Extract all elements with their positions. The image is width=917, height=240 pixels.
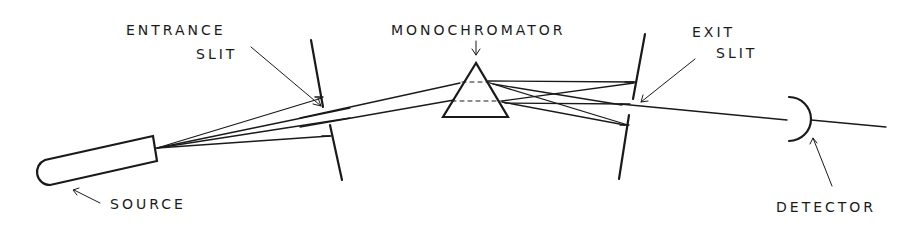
dispersed-beams [488,81,634,125]
source-arrow-icon [73,188,100,203]
detector [789,97,886,141]
detector-label: DETECTOR [776,199,876,215]
exit-label-line2: SLIT [716,45,757,61]
entrance-label-line1: ENTRANCE [126,22,226,38]
exit-beam [620,104,787,120]
source-lamp [37,136,157,185]
exit-slit-arrow-icon [641,59,695,102]
source-label: SOURCE [110,196,186,212]
monochromator-arrow-icon [472,41,480,55]
entrance-slit-arrow-icon [251,47,321,106]
prism-monochromator [443,63,508,117]
incident-beam [157,83,460,148]
exit-label-line1: EXIT [692,24,735,40]
monochromator-label: MONOCHROMATOR [391,22,566,38]
detector-arrow-icon [810,138,832,186]
entrance-label-line2: SLIT [196,46,237,62]
